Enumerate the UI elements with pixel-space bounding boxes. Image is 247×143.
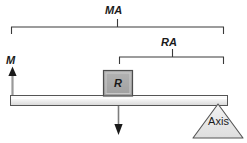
effort-force-arrow: [8, 67, 16, 97]
resistance-force-arrow: [114, 104, 122, 135]
lever-beam: [11, 96, 228, 106]
effort-force-label: M: [6, 55, 15, 66]
resistance-arm-label: RA: [161, 37, 177, 48]
resistance-block-label: R: [103, 70, 133, 96]
effort-arm-label: MA: [105, 5, 122, 16]
diagram-canvas: MA RA M R Axis: [0, 0, 247, 143]
effort-arm-bracket: [11, 19, 224, 34]
fulcrum-label: Axis: [196, 116, 241, 127]
resistance-arm-bracket: [119, 49, 224, 64]
